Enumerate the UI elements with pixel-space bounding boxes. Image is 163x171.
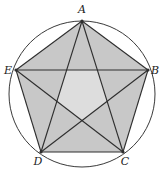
vertex-point-e	[14, 68, 17, 71]
vertex-label-a: A	[77, 3, 86, 16]
vertex-label-b: B	[150, 64, 159, 77]
vertex-point-d	[39, 150, 42, 153]
vertex-point-c	[121, 150, 124, 153]
pentagram-diagram: A B C D E	[0, 0, 163, 171]
vertex-point-b	[146, 68, 149, 71]
vertex-label-c: C	[121, 155, 130, 168]
vertex-point-a	[80, 19, 83, 22]
pentagon-fills	[16, 21, 148, 152]
vertex-label-d: D	[33, 155, 43, 168]
vertex-label-e: E	[3, 64, 12, 77]
